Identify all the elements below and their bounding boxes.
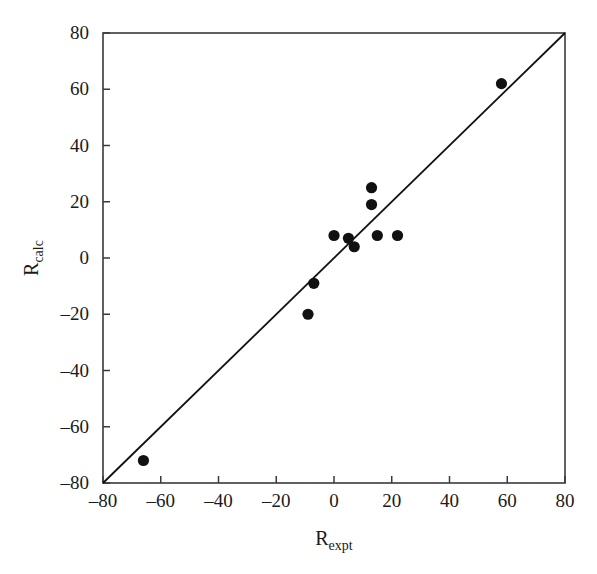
y-tick-label: 60 [70,78,89,99]
y-axis-title-sub: calc [31,240,46,263]
x-tick-label: 80 [556,490,575,511]
data-point [308,278,319,289]
data-point [392,230,403,241]
x-tick-labels: –80–60–40–20020406080 [88,490,575,511]
y-axis-title-base: R [20,262,42,276]
data-point [496,78,507,89]
y-tick-label: 20 [70,191,89,212]
y-tick-label: 80 [70,22,89,43]
data-point [366,182,377,193]
x-tick-label: –60 [146,490,176,511]
data-point [138,455,149,466]
x-tick-label: 40 [440,490,459,511]
x-tick-label: –40 [203,490,233,511]
x-tick-label: 20 [382,490,401,511]
y-tick-label: 40 [70,135,89,156]
plot-background [0,0,597,574]
y-tick-label: –80 [60,472,90,493]
x-axis-title-sub: expt [329,538,353,553]
y-tick-label: –40 [60,360,90,381]
figure-container: –80–60–40–20020406080 –80–60–40–20020406… [0,0,597,574]
data-point [366,199,377,210]
x-tick-label: –80 [88,490,118,511]
x-tick-label: 0 [329,490,339,511]
x-tick-label: 60 [498,490,517,511]
data-point [328,230,339,241]
x-axis-title-base: R [315,527,329,549]
y-tick-label: –20 [60,303,90,324]
x-tick-label: –20 [261,490,291,511]
data-point [372,230,383,241]
data-point [302,309,313,320]
scatter-plot: –80–60–40–20020406080 –80–60–40–20020406… [0,0,597,574]
y-tick-label: 0 [80,247,90,268]
y-tick-label: –60 [60,416,90,437]
data-point [349,241,360,252]
